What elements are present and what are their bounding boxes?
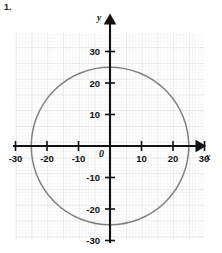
y-tick-label-neg20: -20 bbox=[86, 204, 100, 215]
x-axis-label: x bbox=[205, 152, 211, 162]
x-tick-label-10: 10 bbox=[136, 153, 147, 164]
y-tick-label-20: 20 bbox=[89, 78, 100, 89]
x-tick-label-neg20: -20 bbox=[40, 153, 54, 164]
x-tick-label-neg30: -30 bbox=[9, 153, 23, 164]
origin-label: 0 bbox=[99, 148, 104, 159]
y-tick-label-10: 10 bbox=[89, 109, 100, 120]
y-tick-label-neg10: -10 bbox=[86, 172, 100, 183]
coordinate-graph-figure: -30 -20 -10 10 20 30 30 20 10 -10 -20 -3… bbox=[0, 0, 222, 253]
y-tick-label-30: 30 bbox=[89, 46, 100, 57]
y-axis-label: y bbox=[96, 13, 102, 23]
y-tick-label-neg30: -30 bbox=[86, 235, 100, 246]
x-tick-label-20: 20 bbox=[168, 153, 179, 164]
x-tick-label-neg10: -10 bbox=[72, 153, 86, 164]
graph-svg: -30 -20 -10 10 20 30 30 20 10 -10 -20 -3… bbox=[0, 0, 222, 253]
